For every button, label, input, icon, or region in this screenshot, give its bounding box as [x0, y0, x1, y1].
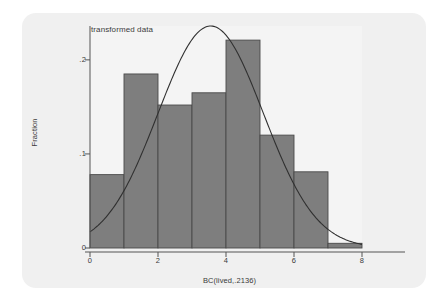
histogram-chart — [0, 0, 447, 300]
histogram-bar — [328, 243, 362, 248]
chart-title: transformed data — [91, 25, 153, 34]
y-tick-label: .1 — [74, 149, 86, 158]
x-tick-label: 2 — [151, 256, 165, 265]
x-tick-label: 6 — [287, 256, 301, 265]
x-tick-label: 4 — [219, 256, 233, 265]
histogram-bar — [226, 40, 260, 248]
x-tick-label: 8 — [355, 256, 369, 265]
histogram-bar — [260, 135, 294, 248]
x-axis-label-text: BC(lived,.2136) — [203, 276, 256, 285]
y-tick-label: 0 — [74, 243, 86, 252]
histogram-bar — [192, 93, 226, 248]
y-tick-label: .2 — [74, 55, 86, 64]
histogram-bar — [294, 172, 328, 248]
histogram-bar — [158, 105, 192, 248]
histogram-bar — [90, 175, 124, 248]
x-tick-label: 0 — [83, 256, 97, 265]
figure-container: transformed data Fraction BC(lived,.2136… — [0, 0, 447, 300]
x-axis-label: BC(lived,.2136) — [0, 276, 447, 285]
histogram-bar — [124, 74, 158, 248]
bars-group — [90, 40, 362, 248]
y-axis-label: Fraction — [30, 93, 39, 173]
